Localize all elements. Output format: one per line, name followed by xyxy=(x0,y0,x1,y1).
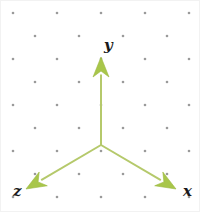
grid-dot xyxy=(188,58,191,61)
grid-dot xyxy=(56,104,59,107)
grid-dot xyxy=(144,104,147,107)
grid-dot xyxy=(188,104,191,107)
grid-dot xyxy=(34,173,37,176)
coordinate-axes-diagram: yxz xyxy=(0,0,200,212)
y-axis-label: y xyxy=(103,36,114,54)
diagram-canvas: yxz xyxy=(0,0,200,212)
grid-dot xyxy=(144,196,147,199)
grid-dot xyxy=(56,58,59,61)
grid-dot xyxy=(188,12,191,15)
grid-dot xyxy=(56,150,59,153)
grid-dot xyxy=(166,81,169,84)
grid-dot xyxy=(144,12,147,15)
grid-dot xyxy=(56,12,59,15)
grid-dot xyxy=(122,173,125,176)
grid-dot xyxy=(166,35,169,38)
grid-dot xyxy=(12,58,15,61)
grid-dot xyxy=(188,150,191,153)
grid-dot xyxy=(122,35,125,38)
grid-dot xyxy=(166,127,169,130)
grid-dot xyxy=(12,150,15,153)
grid-dot xyxy=(12,104,15,107)
grid-dot xyxy=(34,81,37,84)
grid-dot xyxy=(144,150,147,153)
z-axis-label: z xyxy=(12,182,22,200)
grid-dot xyxy=(100,150,103,153)
grid-dot xyxy=(78,35,81,38)
grid-dot xyxy=(166,173,169,176)
grid-dot xyxy=(144,58,147,61)
grid-dot xyxy=(78,81,81,84)
grid-dot xyxy=(100,196,103,199)
grid-dot xyxy=(122,127,125,130)
x-axis-label: x xyxy=(182,182,193,200)
grid-dot xyxy=(78,127,81,130)
grid-dot xyxy=(78,173,81,176)
grid-dot xyxy=(12,12,15,15)
grid-dot xyxy=(56,196,59,199)
grid-dot xyxy=(34,127,37,130)
grid-dot xyxy=(34,35,37,38)
grid-dot xyxy=(122,81,125,84)
grid-dot xyxy=(100,12,103,15)
